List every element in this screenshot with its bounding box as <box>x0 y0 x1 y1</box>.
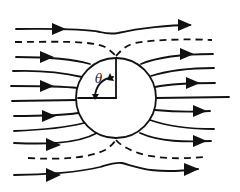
arrow-head <box>40 51 54 63</box>
streamline-center-left <box>12 100 77 101</box>
streamline-lower-3-left <box>14 133 97 144</box>
arrow-head <box>178 19 192 31</box>
arrow-head <box>186 77 200 89</box>
streamline-lower-2-right <box>150 120 214 129</box>
arrow-head <box>42 110 56 122</box>
flow-diagram: θ <box>0 0 240 192</box>
arrow-head <box>193 135 207 147</box>
dividing-streamline-bottom <box>116 140 205 158</box>
arrow-head <box>52 23 66 35</box>
arrow-head <box>184 163 199 176</box>
arrow-head <box>46 138 61 151</box>
angle-theta-label: θ <box>95 72 103 86</box>
streamline-bottom-outer <box>14 163 198 175</box>
arrow-head <box>46 168 61 182</box>
streamline-upper-3-right <box>155 83 215 87</box>
streamline-top-outer <box>16 25 190 34</box>
streamline-upper-1-right <box>141 54 213 64</box>
flow-diagram-svg: θ <box>0 0 240 192</box>
arrow-head <box>180 48 194 60</box>
streamline-upper-2-left <box>13 71 82 77</box>
streamline-upper-2-right <box>151 68 214 76</box>
arrow-head <box>193 105 207 117</box>
arrow-head <box>40 80 54 92</box>
streamline-center-right <box>156 97 229 98</box>
dividing-streamline-top <box>15 42 116 56</box>
streamline-lower-2-left <box>14 123 84 131</box>
streamline-upper-1-left <box>16 57 90 64</box>
